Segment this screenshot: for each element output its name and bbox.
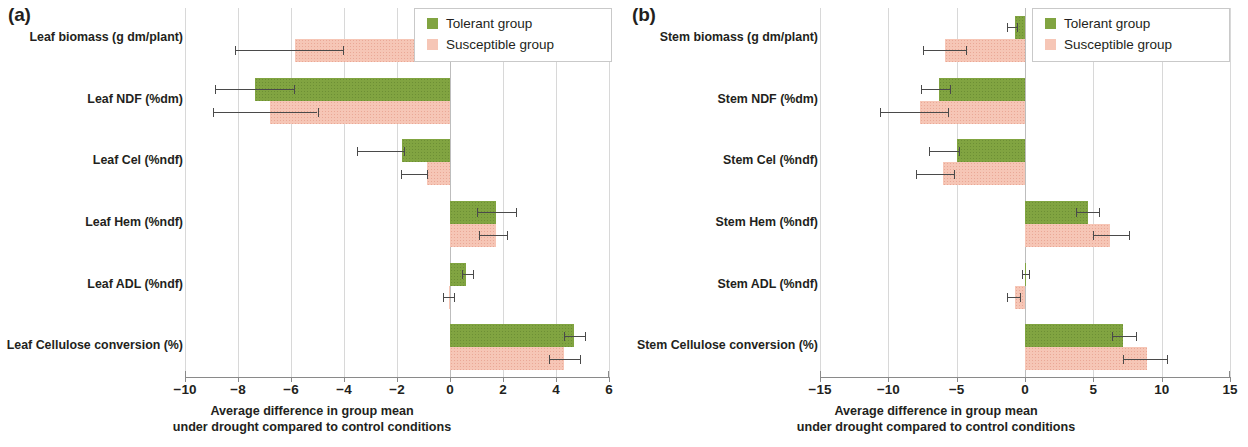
error-bar-cap-low (549, 355, 550, 364)
error-bar-cap-high (585, 332, 586, 341)
x-tick-label--8: −8 (230, 382, 245, 397)
x-tick-label--4: −4 (336, 382, 351, 397)
error-bar (1093, 235, 1129, 236)
gridline--8 (238, 8, 239, 378)
error-bar-cap-high (294, 85, 295, 94)
x-tick-label-15: 15 (1222, 382, 1237, 397)
x-tick-label-5: 5 (1090, 382, 1098, 397)
figure-container: (a) −10−8−6−4−20246 Tolerant group Susce… (0, 0, 1248, 447)
category-label: Stem Hem (%ndf) (715, 216, 818, 230)
error-bar-cap-high (473, 270, 474, 279)
error-bar-cap-low (929, 147, 930, 156)
error-bar (1123, 359, 1167, 360)
error-bar-cap-low (235, 46, 236, 55)
legend-label-tolerant: Tolerant group (1064, 16, 1150, 31)
error-bar (1076, 212, 1099, 213)
error-bar-cap-high (1129, 231, 1130, 240)
legend-label-tolerant: Tolerant group (446, 16, 532, 31)
error-bar-cap-high (427, 170, 428, 179)
x-axis-line (185, 377, 609, 378)
panel-a-legend: Tolerant group Susceptible group (414, 8, 612, 62)
gridline--10 (185, 8, 186, 378)
error-bar (401, 174, 428, 175)
x-tick-label-10: 10 (1154, 382, 1169, 397)
gridline-5 (1093, 8, 1094, 378)
x-tick-label-2: 2 (499, 382, 507, 397)
gridline-0 (450, 8, 451, 378)
panel-b-x-axis-title-line2: under drought compared to control condit… (624, 420, 1248, 436)
error-bar (235, 50, 342, 51)
category-label: Leaf NDF (%dm) (87, 93, 183, 107)
error-bar (923, 50, 967, 51)
error-bar-cap-high (954, 170, 955, 179)
error-bar (564, 336, 585, 337)
error-bar-cap-low (916, 170, 917, 179)
error-bar (1022, 274, 1030, 275)
error-bar-cap-high (507, 231, 508, 240)
bar-susceptible (943, 162, 1025, 185)
category-label: Leaf ADL (%ndf) (87, 278, 183, 292)
bar-susceptible (427, 162, 450, 185)
error-bar-cap-high (516, 208, 517, 217)
error-bar-cap-low (215, 85, 216, 94)
panel-a: (a) −10−8−6−4−20246 Tolerant group Susce… (0, 0, 624, 447)
gridline-2 (503, 8, 504, 378)
error-bar-cap-low (1007, 293, 1008, 302)
bar-tolerant (450, 324, 574, 347)
panel-b-plot-area (820, 8, 1230, 378)
axis-cap-right (1229, 371, 1230, 378)
error-bar-cap-high (404, 147, 405, 156)
panel-b-x-tick-labels: −15−10−5051015 (820, 382, 1230, 404)
error-bar-cap-low (462, 270, 463, 279)
legend-swatch-tolerant-icon (1045, 18, 1056, 29)
x-tick-label--2: −2 (389, 382, 404, 397)
panel-a-x-axis-title-line2: under drought compared to control condit… (0, 420, 624, 436)
gridline--10 (888, 8, 889, 378)
category-label: Stem Cel (%ndf) (723, 154, 818, 168)
error-bar (215, 89, 293, 90)
x-tick-label-6: 6 (605, 382, 613, 397)
panel-b-letter: (b) (632, 4, 656, 26)
bar-tolerant (1025, 324, 1123, 347)
panel-a-x-axis-title: Average difference in group mean under d… (0, 404, 624, 435)
error-bar-cap-high (1136, 332, 1137, 341)
error-bar (357, 151, 403, 152)
category-label: Stem Cellulose conversion (%) (637, 339, 818, 353)
category-label: Leaf biomass (g dm/plant) (29, 31, 183, 45)
x-tick-label--5: −5 (949, 382, 964, 397)
error-bar (1007, 297, 1020, 298)
error-bar-cap-high (343, 46, 344, 55)
legend-label-susceptible: Susceptible group (446, 37, 554, 52)
legend-label-susceptible: Susceptible group (1064, 37, 1172, 52)
error-bar-cap-high (966, 46, 967, 55)
error-bar (1007, 27, 1017, 28)
gridline-0 (1025, 8, 1026, 378)
legend-item-tolerant: Tolerant group (427, 16, 532, 31)
error-bar (916, 174, 954, 175)
gridline-10 (1162, 8, 1163, 378)
error-bar (213, 112, 318, 113)
error-bar (1112, 336, 1135, 337)
legend-item-tolerant: Tolerant group (1045, 16, 1150, 31)
error-bar-cap-low (479, 231, 480, 240)
error-bar-cap-low (477, 208, 478, 217)
error-bar-cap-low (1076, 208, 1077, 217)
error-bar-cap-high (1099, 208, 1100, 217)
error-bar-cap-high (1167, 355, 1168, 364)
error-bar-cap-low (443, 293, 444, 302)
panel-a-plot-area (185, 8, 609, 378)
x-tick-label--10: −10 (877, 382, 900, 397)
error-bar-cap-low (923, 46, 924, 55)
bar-tolerant (957, 139, 1025, 162)
gridline--15 (820, 8, 821, 378)
category-label: Stem NDF (%dm) (717, 93, 818, 107)
error-bar (549, 359, 579, 360)
axis-cap-left (820, 371, 821, 378)
x-tick-label--6: −6 (283, 382, 298, 397)
error-bar (929, 151, 959, 152)
legend-swatch-susceptible-icon (1045, 39, 1056, 50)
error-bar-cap-low (213, 108, 214, 117)
legend-swatch-susceptible-icon (427, 39, 438, 50)
gridline--4 (344, 8, 345, 378)
error-bar (921, 89, 950, 90)
